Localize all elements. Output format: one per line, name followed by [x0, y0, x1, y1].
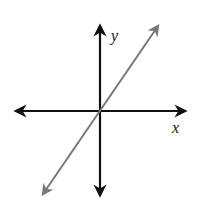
coordinate-plane: y x — [0, 0, 201, 204]
x-axis-label: x — [171, 119, 179, 136]
y-axis-label: y — [109, 27, 119, 45]
